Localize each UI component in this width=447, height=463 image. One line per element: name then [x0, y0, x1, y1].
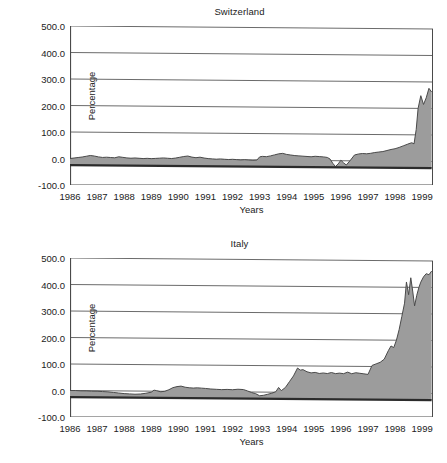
gridline — [70, 132, 433, 135]
x-tick-label: 1993 — [249, 423, 270, 434]
plot-area-italy: Percentage Years 500.0400.0300.0200.0100… — [70, 258, 433, 417]
x-tick-label: 1989 — [141, 191, 162, 202]
gridline — [70, 53, 433, 56]
x-tick-label: 1996 — [330, 191, 351, 202]
x-tick-label: 1995 — [303, 191, 324, 202]
x-tick-label: 1998 — [384, 191, 405, 202]
y-tick-label: 400.0 — [19, 47, 65, 58]
gridline — [70, 285, 433, 288]
gridline — [70, 258, 433, 261]
x-axis-label-italy: Years — [70, 436, 433, 447]
x-tick-label: 1996 — [330, 423, 351, 434]
gridline — [70, 79, 433, 82]
y-tick-label: -100.0 — [19, 412, 65, 423]
y-tick-label: 0.0 — [19, 385, 65, 396]
chart-title-italy: Italy — [0, 238, 447, 249]
x-tick-label: 1989 — [141, 423, 162, 434]
x-tick-label: 1987 — [87, 191, 108, 202]
y-tick-label: 300.0 — [19, 74, 65, 85]
y-tick-label: 300.0 — [19, 306, 65, 317]
gridline — [70, 311, 433, 314]
series-area — [70, 88, 432, 168]
series-area — [70, 271, 432, 400]
y-tick-label: 400.0 — [19, 279, 65, 290]
y-tick-label: 100.0 — [19, 127, 65, 138]
x-tick-label: 1999 — [412, 423, 433, 434]
gridline — [70, 106, 433, 109]
chart-panel-switzerland: Switzerland Percentage Years 500.0400.03… — [0, 0, 447, 231]
x-tick-label: 1990 — [168, 191, 189, 202]
x-tick-label: 1999 — [412, 191, 433, 202]
x-tick-label: 1986 — [59, 423, 80, 434]
x-tick-label: 1993 — [249, 191, 270, 202]
plot-area-switzerland: Percentage Years 500.0400.0300.0200.0100… — [70, 26, 433, 185]
chart-title-switzerland: Switzerland — [0, 6, 447, 17]
y-tick-label: 200.0 — [19, 332, 65, 343]
y-tick-label: 0.0 — [19, 153, 65, 164]
y-tick-label: 500.0 — [19, 253, 65, 264]
chart-svg-italy — [70, 258, 433, 417]
x-tick-label: 1988 — [114, 423, 135, 434]
x-tick-label: 1990 — [168, 423, 189, 434]
x-tick-label: 1991 — [195, 191, 216, 202]
chart-panel-italy: Italy Percentage Years 500.0400.0300.020… — [0, 232, 447, 463]
x-tick-label: 1992 — [222, 191, 243, 202]
y-tick-label: -100.0 — [19, 180, 65, 191]
x-tick-label: 1994 — [276, 423, 297, 434]
chart-svg-switzerland — [70, 26, 433, 185]
x-tick-label: 1997 — [357, 423, 378, 434]
y-tick-label: 100.0 — [19, 359, 65, 370]
y-tick-label: 500.0 — [19, 21, 65, 32]
figure-two-panel-area-charts: Switzerland Percentage Years 500.0400.03… — [0, 0, 447, 463]
x-tick-label: 1995 — [303, 423, 324, 434]
x-axis-label-switzerland: Years — [70, 204, 433, 215]
x-tick-label: 1997 — [357, 191, 378, 202]
y-tick-label: 200.0 — [19, 100, 65, 111]
x-tick-label: 1991 — [195, 423, 216, 434]
gridline — [70, 338, 433, 341]
x-tick-label: 1994 — [276, 191, 297, 202]
gridline — [70, 26, 433, 29]
x-tick-label: 1988 — [114, 191, 135, 202]
x-tick-label: 1998 — [384, 423, 405, 434]
x-tick-label: 1992 — [222, 423, 243, 434]
x-tick-label: 1987 — [87, 423, 108, 434]
x-tick-label: 1986 — [59, 191, 80, 202]
